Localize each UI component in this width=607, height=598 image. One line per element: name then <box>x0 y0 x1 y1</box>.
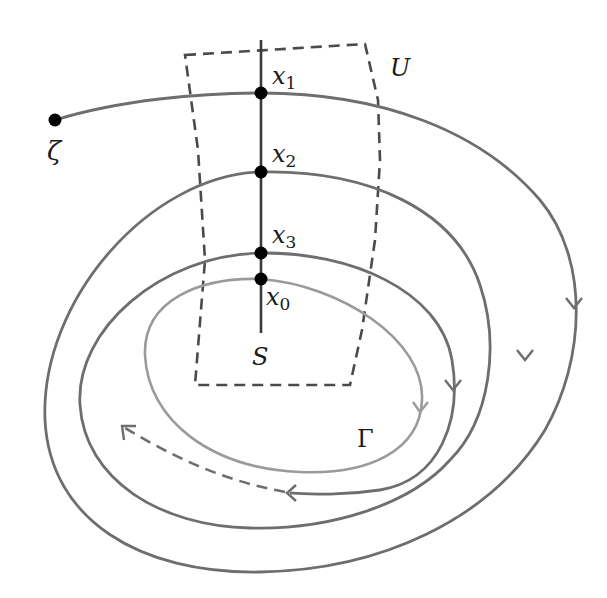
label-zeta: ζ <box>47 136 63 166</box>
trajectory-spiral <box>45 93 576 572</box>
trajectory-continuation-dashed <box>125 428 285 492</box>
label-S: S <box>252 343 268 371</box>
point-x2 <box>255 166 268 179</box>
label-U: U <box>390 54 411 82</box>
label-x3: x3 <box>272 221 296 252</box>
label-gamma: Γ <box>357 425 374 453</box>
point-x3 <box>255 247 268 260</box>
poincare-map-diagram: ζ U S Γ x1 x2 x3 x0 <box>0 0 607 598</box>
point-zeta <box>49 114 62 127</box>
label-x1: x1 <box>272 62 296 93</box>
point-x1 <box>255 87 268 100</box>
label-x0: x0 <box>266 283 290 314</box>
label-x2: x2 <box>272 140 296 171</box>
trajectory-arrow-icon <box>517 350 533 360</box>
trajectory-arrow-icon <box>566 298 582 308</box>
